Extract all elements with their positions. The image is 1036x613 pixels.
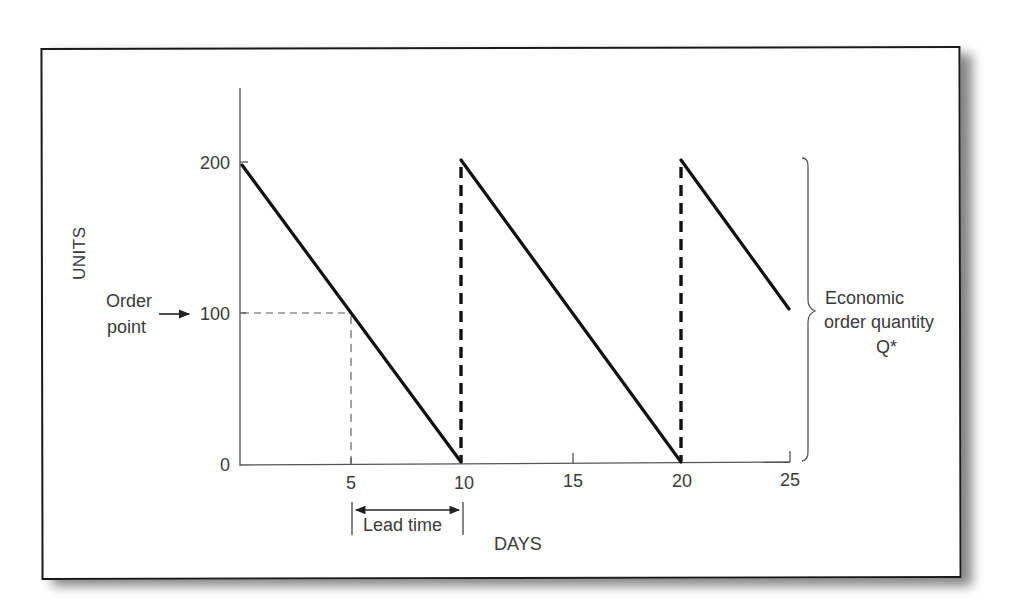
x-tick-label-20: 20 — [672, 472, 692, 490]
x-tick-label-15: 15 — [563, 472, 583, 490]
cycle-3-depletion — [681, 160, 789, 309]
order-point-label-line2: point — [107, 318, 146, 336]
x-tick-label-5: 5 — [346, 474, 356, 492]
order-point-guides — [242, 313, 351, 463]
y-tick-label-100: 100 — [170, 305, 230, 323]
y-tick-label-200: 200 — [170, 154, 230, 172]
lead-time-label: Lead time — [363, 516, 442, 534]
eoq-label-line3: Q* — [876, 338, 897, 356]
eoq-label-line1: Economic — [825, 289, 904, 307]
eoq-label-line2: order quantity — [824, 313, 934, 331]
eoq-brace — [802, 158, 815, 461]
x-tick-label-25: 25 — [780, 471, 800, 489]
x-axis — [240, 462, 790, 465]
y-axis-label: UNITS — [70, 227, 90, 281]
y-tick-label-0: 0 — [170, 456, 230, 474]
axes — [240, 88, 790, 466]
cycle-2-depletion — [461, 160, 681, 462]
x-axis-label: DAYS — [494, 535, 542, 553]
inventory-level-line — [242, 160, 789, 462]
order-point-label-line1: Order — [106, 292, 152, 310]
x-tick-label-10: 10 — [454, 474, 474, 492]
